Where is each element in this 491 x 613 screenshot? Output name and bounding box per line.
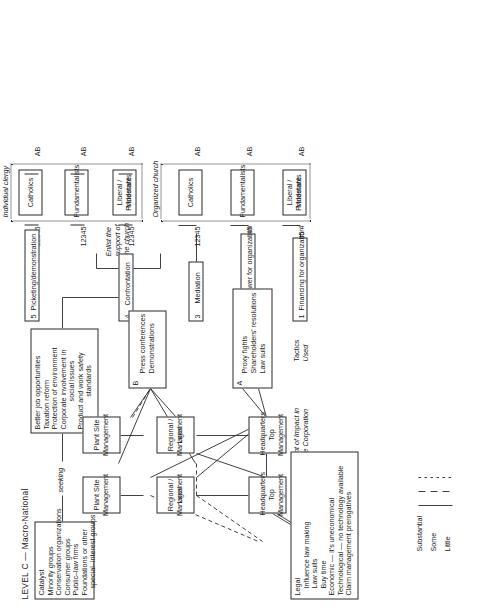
tactics-box-a-item-2: Law suits (258, 343, 267, 373)
organized-church-box-1-right-scale: AB (245, 141, 254, 161)
tactics-box-b-item-1: Demonstrations (147, 323, 156, 373)
tactics-used-label-line1: Tactics (292, 339, 301, 361)
individual-clergy-label: Individual clergy (1, 165, 10, 217)
numbered-tactic-5-num: 5 (29, 314, 38, 318)
numbered-tactic-5-label: Picketing/demonstration (29, 233, 38, 310)
goal-item-6: standards (84, 332, 93, 429)
decision-making-box-1-line2: Management (175, 473, 184, 516)
scale-tick (24, 173, 38, 174)
individual-clergy-box-1-line1: Fundamentalists (72, 167, 81, 217)
tactics-box-b-item-0: Press conferences (138, 313, 147, 373)
legend-label-some: Some (429, 532, 438, 551)
individual-clergy-box-2-right-scale: AB (33, 141, 42, 161)
point-of-impact-box-2-line2: Management (101, 411, 110, 458)
tactics-used-label-line2: Used (301, 344, 310, 361)
scale-tick (70, 173, 84, 174)
goal-item-2: Protection of environment (50, 347, 59, 429)
strategies-item-4: Economic — it's uneconomical (327, 497, 336, 595)
numbered-tactic-3-num: 3 (193, 314, 202, 318)
tactics-box-a-item-1: Shareholders' resolutions (249, 292, 258, 373)
decision-making-box-0-line2: Top Management (267, 471, 285, 518)
organized-church-box-0-right-scale: AB (297, 141, 306, 161)
individual-clergy-box-1-right-scale: AB (79, 141, 88, 161)
tactics-box-b-key: B (131, 380, 140, 385)
catalyst-heading: Catalyst (37, 569, 46, 595)
individual-clergy-box-1-left-scale: 12345 (79, 225, 88, 247)
goal-item-0: Better job opportunities (33, 355, 42, 429)
strategies-item-6: Claim management prerogatives (344, 491, 353, 595)
point-of-impact-box-0-line1: Headquarters (258, 414, 267, 455)
organized-church-box-2-left-scale: 12345 (193, 225, 202, 247)
individual-clergy-box-0-left-scale: 12345 (127, 225, 136, 247)
enlist-church-note-line1: Enlist the (104, 226, 113, 256)
legend-label-substantial: Substantial (415, 515, 424, 551)
legend-label-little: Little (443, 536, 452, 551)
strategies-item-0: Legal (293, 577, 302, 595)
decision-making-box-0-line1: Headquarters (258, 474, 267, 515)
rotated-diagram-canvas: LEVEL C — Macro-National Catalyst Minori… (0, 0, 491, 613)
numbered-tactic-1-label: Financing for organization (297, 227, 306, 310)
numbered-tactic-4-label: Confrontation (123, 262, 132, 305)
organized-church-label: Organized church (151, 160, 160, 217)
organized-church-box-2-right-scale: AB (193, 141, 202, 161)
scale-tick (118, 173, 132, 174)
catalyst-item-1: Conservation organizations (54, 508, 63, 595)
point-of-impact-box-0-line2: Top Management (267, 411, 285, 458)
catalyst-item-3: Public–law firms (71, 543, 80, 595)
decision-making-box-2-line2: Management (101, 471, 110, 518)
individual-clergy-box-0-right-scale: AB (127, 141, 136, 161)
diagram-canvas: LEVEL C — Macro-National Catalyst Minori… (0, 0, 491, 613)
tactics-box-a-item-0: Proxy fights (240, 335, 249, 373)
strategies-item-2: Law suits (310, 558, 319, 588)
numbered-tactic-1-num: 1 (297, 314, 306, 318)
numbered-tactic-3-label: Mediation (193, 272, 202, 303)
tactics-box-a-key: A (235, 380, 244, 385)
individual-clergy-box-0-line2: Protestants (124, 169, 133, 215)
catalyst-item-5: special–interest groups (88, 514, 97, 588)
goal-item-4: social issues (67, 332, 76, 429)
point-of-impact-box-2-line1: Plant Site (92, 414, 101, 455)
organized-church-box-0-line2: Protestants (294, 169, 303, 215)
decision-making-box-2-line1: Plant Site (92, 474, 101, 515)
seeking-label: seeking (56, 467, 65, 492)
scale-tick (118, 224, 132, 225)
individual-clergy-box-2-line1: Catholics (26, 167, 35, 217)
enlist-church-note-line2: support of (113, 224, 122, 256)
scale-tick (70, 224, 84, 225)
organized-church-box-2-line1: Catholics (186, 167, 195, 217)
scale-tick (24, 224, 38, 225)
organized-church-box-1-line1: Fundamentalists (238, 167, 247, 217)
page-title: LEVEL C — Macro-National (20, 488, 29, 599)
point-of-impact-box-1-line2: Management (175, 413, 184, 456)
